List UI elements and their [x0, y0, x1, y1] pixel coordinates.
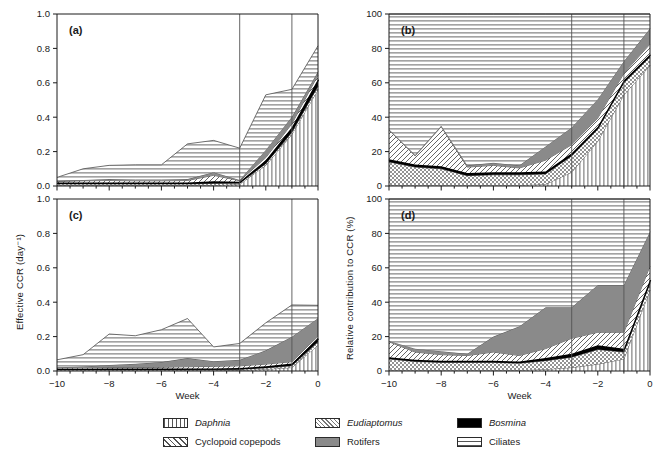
legend-swatch-cross-stipple	[315, 418, 340, 428]
y-axis-title-right: Relative contribution to CCR (%)	[344, 216, 355, 360]
svg-text:−2: −2	[592, 378, 603, 389]
svg-text:0.2: 0.2	[37, 146, 50, 157]
svg-text:20: 20	[371, 331, 382, 342]
svg-text:40: 40	[371, 297, 382, 308]
svg-text:0.2: 0.2	[37, 331, 50, 342]
stacked-areas	[389, 14, 650, 186]
legend-item-bosmina: Bosmina	[457, 417, 607, 428]
svg-text:0: 0	[315, 378, 320, 389]
svg-text:20: 20	[371, 146, 382, 157]
legend-label: Eudiaptomus	[347, 417, 402, 428]
svg-text:−8: −8	[104, 378, 115, 389]
legend-label: Bosmina	[489, 417, 526, 428]
x-axis-ticks	[389, 186, 650, 191]
x-axis-ticks	[57, 186, 318, 191]
panel-c: 0.00.20.40.60.81.0−10−8−6−4−20Week(c)	[23, 193, 326, 401]
legend-item-eudiaptomus: Eudiaptomus	[315, 417, 457, 428]
legend-item-daphnia: Daphnia	[163, 417, 315, 428]
legend-swatch-solid-black	[457, 418, 482, 428]
legend-label: Rotifers	[347, 436, 380, 447]
svg-text:−10: −10	[49, 378, 65, 389]
figure-root: Effective CCR (day⁻¹) Relative contribut…	[0, 0, 664, 457]
svg-text:−6: −6	[488, 378, 499, 389]
x-axis-ticks: −10−8−6−4−20Week	[49, 371, 321, 401]
legend-item-cyclopoid-copepods: Cyclopoid copepods	[163, 436, 315, 447]
svg-text:0.6: 0.6	[37, 77, 50, 88]
legend-label: Ciliates	[489, 436, 520, 447]
svg-text:1.0: 1.0	[37, 193, 50, 204]
svg-text:0: 0	[377, 365, 382, 376]
svg-text:−6: −6	[156, 378, 167, 389]
y-axis-ticks: 0.00.20.40.60.81.0	[37, 8, 57, 191]
legend-swatch-vertical-lines	[163, 418, 188, 428]
x-axis-title: Week	[507, 390, 531, 401]
legend-label: Daphnia	[195, 417, 230, 428]
y-axis-ticks: 020406080100	[366, 193, 389, 376]
svg-text:0.8: 0.8	[37, 43, 50, 54]
svg-text:60: 60	[371, 77, 382, 88]
svg-text:0.4: 0.4	[37, 112, 50, 123]
panel-tag: (c)	[69, 209, 83, 221]
svg-text:0: 0	[647, 378, 652, 389]
svg-text:0.4: 0.4	[37, 297, 50, 308]
svg-text:40: 40	[371, 112, 382, 123]
svg-text:−4: −4	[540, 378, 551, 389]
svg-text:100: 100	[366, 193, 382, 204]
svg-text:−2: −2	[260, 378, 271, 389]
panel-d: 020406080100−10−8−6−4−20Week(d)	[355, 193, 658, 401]
svg-text:80: 80	[371, 228, 382, 239]
panel-tag: (b)	[401, 24, 415, 36]
svg-text:100: 100	[366, 8, 382, 19]
svg-text:1.0: 1.0	[37, 8, 50, 19]
svg-text:80: 80	[371, 43, 382, 54]
stacked-areas	[389, 199, 650, 371]
legend-swatch-diagonal-hatch	[163, 437, 188, 447]
y-axis-ticks: 020406080100	[366, 8, 389, 191]
svg-text:0.0: 0.0	[37, 365, 50, 376]
panel-tag: (a)	[69, 24, 83, 36]
svg-text:−4: −4	[208, 378, 219, 389]
legend-item-ciliates: Ciliates	[457, 436, 607, 447]
x-axis-ticks: −10−8−6−4−20Week	[381, 371, 653, 401]
svg-text:0.0: 0.0	[37, 180, 50, 191]
figure-legend: DaphniaEudiaptomusBosminaCyclopoid copep…	[0, 407, 664, 453]
panel-a: 0.00.20.40.60.81.0(a)	[23, 8, 326, 216]
svg-text:0.6: 0.6	[37, 262, 50, 273]
panel-tag: (d)	[401, 209, 415, 221]
legend-swatch-solid-gray	[315, 437, 340, 447]
svg-text:0.8: 0.8	[37, 228, 50, 239]
svg-text:−8: −8	[436, 378, 447, 389]
y-axis-ticks: 0.00.20.40.60.81.0	[37, 193, 57, 376]
legend-swatch-horizontal-lines	[457, 437, 482, 447]
legend-label: Cyclopoid copepods	[195, 436, 281, 447]
svg-text:0: 0	[377, 180, 382, 191]
svg-text:60: 60	[371, 262, 382, 273]
svg-text:−10: −10	[381, 378, 397, 389]
x-axis-title: Week	[175, 390, 199, 401]
legend-item-rotifers: Rotifers	[315, 436, 457, 447]
panel-b: 020406080100(b)	[355, 8, 658, 216]
